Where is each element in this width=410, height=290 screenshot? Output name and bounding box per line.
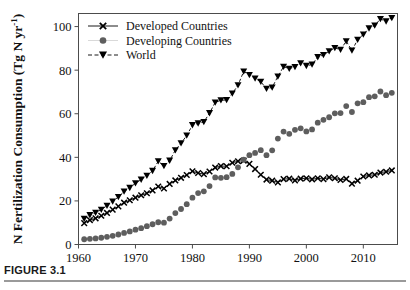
marker-circle xyxy=(190,195,196,201)
marker-circle xyxy=(326,114,332,120)
marker-circle xyxy=(127,229,133,235)
marker-circle xyxy=(110,233,116,239)
marker-circle xyxy=(389,90,395,96)
marker-circle xyxy=(207,183,213,189)
x-tick-label: 2010 xyxy=(351,251,376,263)
y-axis-title-close: ) xyxy=(10,14,25,19)
figure-caption-label: FIGURE 3.1 xyxy=(4,264,406,276)
marker-circle xyxy=(218,175,224,181)
marker-circle xyxy=(144,223,150,229)
y-tick-label: 20 xyxy=(59,194,72,208)
y-tick-label: 60 xyxy=(59,107,72,121)
marker-circle xyxy=(303,128,309,134)
legend-item-label: Developing Countries xyxy=(126,34,232,48)
marker-circle xyxy=(172,210,178,216)
marker-circle xyxy=(281,129,287,135)
x-tick-label: 1980 xyxy=(180,251,205,263)
y-tick-label: 80 xyxy=(59,64,72,78)
marker-circle xyxy=(378,89,384,95)
marker-circle xyxy=(360,99,366,105)
marker-circle xyxy=(338,110,344,116)
y-tick-label: 40 xyxy=(59,151,72,165)
caption-divider xyxy=(4,280,406,282)
marker-circle xyxy=(212,174,218,180)
x-tick-label: 1960 xyxy=(66,251,91,263)
x-tick-label: 1990 xyxy=(237,251,262,263)
marker-circle xyxy=(258,147,264,153)
marker-circle xyxy=(366,94,372,100)
marker-circle xyxy=(355,100,361,106)
marker-circle xyxy=(252,150,258,156)
y-axis-title-main: N Fertilization Consumption (Tg N yr xyxy=(10,26,25,245)
chart-canvas: 020406080100 196019701980199020002010 De… xyxy=(0,0,410,262)
legend-item-label: Developed Countries xyxy=(126,19,228,33)
marker-circle xyxy=(246,152,252,158)
marker-circle xyxy=(161,220,167,226)
marker-circle xyxy=(224,174,230,180)
marker-circle xyxy=(195,190,201,196)
marker-circle xyxy=(150,221,156,227)
marker-circle xyxy=(81,236,87,242)
marker-circle xyxy=(343,103,349,109)
svg-text:N Fertilization Consumption (T: N Fertilization Consumption (Tg N yr-1) xyxy=(9,14,25,245)
marker-circle xyxy=(201,188,207,194)
marker-circle xyxy=(292,127,298,133)
marker-circle xyxy=(155,219,161,225)
marker-circle xyxy=(309,127,315,133)
marker-circle xyxy=(275,136,281,142)
x-tick-label: 1970 xyxy=(123,251,148,263)
marker-circle xyxy=(286,131,292,137)
marker-circle xyxy=(104,234,110,240)
marker-circle xyxy=(383,92,389,98)
marker-circle xyxy=(235,164,241,170)
marker-circle xyxy=(269,147,275,153)
y-axis-title: N Fertilization Consumption (Tg N yr-1) xyxy=(9,14,25,245)
marker-circle xyxy=(315,120,321,126)
marker-circle xyxy=(229,171,235,177)
marker-circle xyxy=(298,125,304,131)
marker-circle xyxy=(184,201,190,207)
figure-caption: FIGURE 3.1 xyxy=(4,264,406,282)
marker-circle xyxy=(372,93,378,99)
legend-item-label: World xyxy=(126,48,156,62)
figure-container: 020406080100 196019701980199020002010 De… xyxy=(0,0,410,290)
marker-circle xyxy=(93,235,99,241)
marker-circle xyxy=(100,37,107,44)
marker-circle xyxy=(167,216,173,222)
x-axis-ticks: 196019701980199020002010 xyxy=(66,245,376,263)
marker-circle xyxy=(178,206,184,212)
marker-circle xyxy=(264,152,270,158)
marker-circle xyxy=(241,157,247,163)
marker-circle xyxy=(121,230,127,236)
marker-circle xyxy=(98,235,104,241)
marker-circle xyxy=(87,236,93,242)
marker-circle xyxy=(332,110,338,116)
y-tick-label: 100 xyxy=(53,20,72,34)
marker-circle xyxy=(115,232,121,238)
y-axis-ticks: 020406080100 xyxy=(53,20,79,252)
marker-circle xyxy=(138,225,144,231)
marker-circle xyxy=(349,109,355,115)
marker-circle xyxy=(133,227,139,233)
x-tick-label: 2000 xyxy=(294,251,319,263)
marker-circle xyxy=(321,117,327,123)
